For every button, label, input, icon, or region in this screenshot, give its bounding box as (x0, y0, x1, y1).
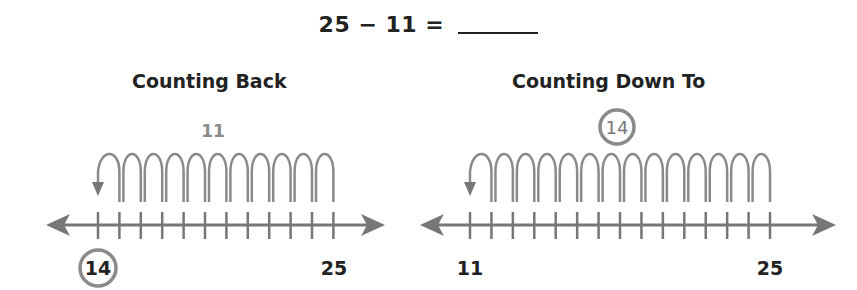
jump-arcs (98, 154, 333, 202)
jump-count-label: 14 (606, 117, 629, 138)
jump-arc (145, 154, 162, 202)
jump-arc (667, 154, 684, 202)
jump-arc (252, 154, 269, 202)
left-endpoint-label: 14 (85, 257, 111, 279)
jump-arc (688, 154, 705, 202)
left-endpoint-label: 11 (457, 257, 483, 279)
jump-count-label: 11 (201, 121, 225, 141)
jump-arc (560, 154, 577, 202)
jump-arc (123, 154, 140, 202)
jump-arc (645, 154, 662, 202)
jump-arc (753, 154, 770, 202)
right-endpoint-label: 25 (321, 257, 347, 279)
jump-arc (710, 154, 727, 202)
right-endpoint-label: 25 (757, 257, 783, 279)
jump-arc (295, 154, 312, 202)
number-line-counting-back (46, 154, 385, 239)
jump-arcs (470, 154, 770, 202)
jump-arc (209, 154, 226, 202)
jump-arrow-icon (464, 182, 476, 196)
jump-arc (188, 154, 205, 202)
number-line-counting-down-to (420, 154, 836, 239)
jump-arc (495, 154, 512, 202)
jump-arc (166, 154, 183, 202)
jump-arrow-icon (92, 182, 104, 196)
jump-arc (624, 154, 641, 202)
jump-arc (731, 154, 748, 202)
jump-arc (470, 154, 491, 202)
jump-arc (316, 154, 333, 202)
jump-arc (603, 154, 620, 202)
jump-arc (98, 154, 119, 202)
jump-arc (230, 154, 247, 202)
number-line-diagram: 11 14 14 25 11 25 (0, 0, 857, 290)
jump-arc (581, 154, 598, 202)
jump-arc (538, 154, 555, 202)
jump-arc (273, 154, 290, 202)
jump-arc (517, 154, 534, 202)
